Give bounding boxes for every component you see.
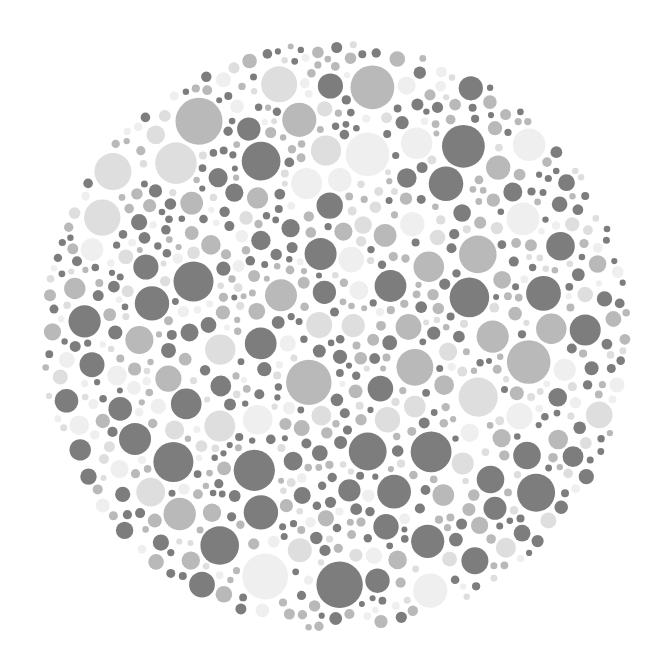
plate-dot-dark [451, 575, 460, 584]
plate-dot-faint [107, 259, 115, 267]
plate-dot-dark [332, 123, 339, 130]
plate-dot-dark [378, 261, 386, 269]
plate-dot-light [272, 404, 278, 410]
plate-dot-mid [315, 464, 322, 471]
plate-dot-mid [440, 419, 449, 428]
plate-dot-faint [128, 239, 136, 247]
plate-dot-mid [119, 194, 126, 201]
plate-dot-mid [306, 227, 317, 238]
plate-dot-mid [511, 238, 521, 248]
plate-dot-faint [173, 253, 183, 263]
plate-dot-dark [70, 341, 81, 352]
plate-dot-mid [483, 95, 497, 109]
plate-dot-dark [509, 257, 519, 267]
plate-dot-dark [167, 549, 174, 556]
plate-dot-dark [373, 514, 398, 539]
plate-dot-mid [103, 308, 116, 321]
plate-dot-dark [554, 410, 561, 417]
plate-dot-dark [257, 362, 271, 376]
plate-dot-dark [139, 232, 151, 244]
plate-dot-mid [176, 98, 223, 145]
plate-dot-faint [135, 408, 144, 417]
plate-dot-light [397, 460, 405, 468]
plate-dot-dark [551, 146, 563, 158]
plate-dot-faint [305, 90, 313, 98]
plate-dot-mid [131, 188, 142, 199]
plate-dot-light [108, 346, 114, 352]
plate-dot-mid [219, 293, 228, 302]
plate-dot-mid [312, 47, 324, 59]
plate-dot-light [69, 207, 81, 219]
plate-dot-faint [149, 221, 157, 229]
plate-dot-mid [264, 276, 270, 282]
plate-dot-faint [88, 399, 98, 409]
plate-dot-faint [116, 296, 123, 303]
plate-dot-dark [209, 168, 228, 187]
plate-dot-dark [379, 597, 387, 605]
plate-dot-faint [506, 403, 532, 429]
plate-dot-dark [517, 109, 524, 116]
plate-dot-faint [328, 168, 352, 192]
plate-dot-mid [442, 403, 450, 411]
plate-dot-mid [468, 489, 480, 501]
plate-dot-dark [84, 340, 91, 347]
plate-dot-mid [389, 252, 398, 261]
plate-dot-faint [193, 426, 200, 433]
plate-dot-mid [139, 399, 145, 405]
plate-dot-mid [131, 469, 140, 478]
plate-dot-dark [325, 497, 336, 508]
plate-dot-faint [400, 212, 424, 236]
plate-dot-dark [153, 535, 169, 551]
plate-dot-mid [361, 305, 367, 311]
plate-dot-light [53, 370, 68, 385]
plate-dot-light [464, 594, 470, 600]
plate-dot-dark [271, 249, 282, 260]
plate-dot-dark [526, 550, 532, 556]
plate-dot-faint [362, 114, 370, 122]
plate-dot-light [210, 194, 217, 201]
plate-dot-light [218, 283, 224, 289]
plate-dot-dark [504, 129, 511, 136]
plate-dot-light [443, 94, 449, 100]
plate-dot-dark [365, 569, 389, 593]
plate-dot-light [586, 402, 613, 429]
plate-dot-mid [228, 275, 235, 282]
plate-dot-mid [475, 198, 482, 205]
plate-dot-dark [338, 479, 360, 501]
plate-dot-dark [328, 340, 335, 347]
plate-dot-light [577, 287, 593, 303]
plate-dot-light [176, 538, 182, 544]
plate-dot-light [99, 454, 109, 464]
plate-dot-light [155, 142, 197, 184]
plate-dot-light [233, 391, 241, 399]
plate-dot-faint [142, 377, 151, 386]
plate-dot-dark [447, 243, 457, 253]
plate-dot-faint [178, 306, 189, 317]
plate-dot-light [523, 320, 529, 326]
plate-dot-light [563, 469, 573, 479]
plate-dot-mid [314, 61, 321, 68]
plate-dot-faint [552, 221, 560, 229]
plate-dot-mid [548, 430, 568, 450]
plate-dot-mid [64, 278, 85, 299]
plate-dot-dark [343, 426, 352, 435]
plate-dot-dark [255, 104, 262, 111]
plate-dot-dark [123, 510, 132, 519]
plate-dot-dark [119, 423, 151, 455]
plate-dot-faint [392, 602, 400, 610]
plate-dot-mid [589, 255, 607, 273]
plate-dot-light [583, 225, 593, 235]
plate-dot-mid [501, 561, 509, 569]
plate-dot-dark [319, 545, 330, 556]
plate-dot-dark [189, 572, 215, 598]
plate-dot-dark [246, 256, 256, 266]
plate-dot-mid [164, 498, 196, 530]
plate-dot-mid [449, 99, 461, 111]
plate-dot-mid [471, 368, 477, 374]
plate-dot-mid [353, 341, 361, 349]
plate-dot-light [439, 343, 457, 361]
plate-dot-dark [442, 125, 485, 168]
plate-dot-light [140, 160, 148, 168]
plate-dot-dark [375, 270, 407, 302]
plate-dot-light [288, 538, 312, 562]
